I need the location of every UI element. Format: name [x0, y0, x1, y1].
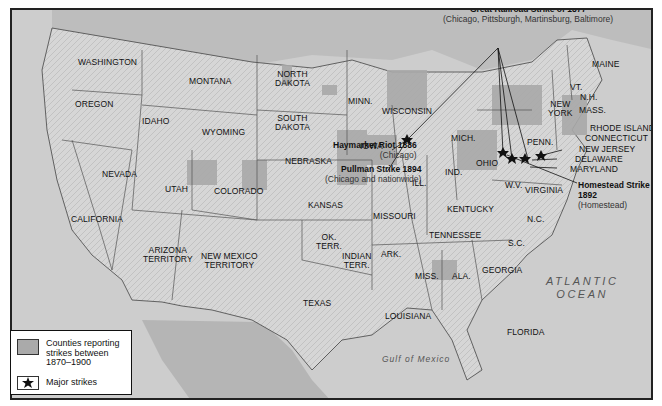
state-label-connecticut: CONNECTICUT — [585, 134, 648, 143]
strike-star-icon — [17, 376, 39, 390]
state-label-mass: MASS. — [579, 106, 606, 115]
state-label-new-mexico: NEW MEXICO TERRITORY — [201, 252, 258, 270]
state-label-ark: ARK. — [381, 250, 401, 259]
state-label-louisiana: LOUISIANA — [385, 312, 431, 321]
state-label-ok-terr: OK. TERR. — [316, 233, 342, 251]
state-label-texas: TEXAS — [303, 299, 331, 308]
state-label-ala: ALA. — [452, 272, 471, 281]
state-label-indian-terr: INDIAN TERR. — [342, 252, 371, 270]
state-label-oregon: OREGON — [75, 100, 113, 109]
state-label-minn: MINN. — [348, 97, 373, 106]
okterr-line2: TERR. — [316, 242, 342, 251]
state-label-colorado: COLORADO — [214, 187, 263, 196]
gray-swatch-icon — [17, 339, 39, 355]
state-label-california: CALIFORNIA — [71, 215, 123, 224]
state-label-wyoming: WYOMING — [202, 128, 245, 137]
state-label-south-dakota: SOUTH DAKOTA — [275, 114, 310, 132]
state-label-nc: N.C. — [527, 215, 544, 224]
state-label-wisconsin: WISCONSIN — [382, 107, 432, 116]
map-legend: Counties reporting strikes between 1870–… — [10, 330, 132, 395]
atlantic-ocean-label: ATLANTIC OCEAN — [546, 275, 618, 301]
state-label-penn: PENN. — [527, 138, 553, 147]
state-label-kansas: KANSAS — [308, 201, 343, 210]
state-label-rhode-island: RHODE ISLAND — [590, 124, 653, 133]
state-label-mich: MICH. — [451, 134, 476, 143]
state-label-vt: VT. — [570, 83, 583, 92]
state-label-washington: WASHINGTON — [78, 58, 137, 67]
event-title: Homestead Strike — [578, 180, 650, 190]
state-label-miss: MISS. — [415, 272, 439, 281]
state-label-north-dakota: NORTH DAKOTA — [275, 70, 310, 88]
state-label-maryland: MARYLAND — [570, 165, 618, 174]
atlantic-label-line1: ATLANTIC — [546, 275, 618, 288]
event-pullman-strike: Pullman Strike 1894 (Chicago and nationw… — [325, 164, 421, 184]
state-label-georgia: GEORGIA — [482, 266, 522, 275]
state-label-ind: IND. — [445, 168, 462, 177]
event-great-railroad-strike: Great Railroad Strike of 1877 (Chicago, … — [443, 8, 613, 24]
state-label-montana: MONTANA — [189, 77, 232, 86]
state-label-new-york: NEW YORK — [548, 100, 573, 118]
state-label-virginia: VIRGINIA — [525, 186, 563, 195]
event-year: 1892 — [578, 190, 597, 200]
event-title: Pullman Strike 1894 — [341, 164, 421, 174]
event-title: Haymarket Riot 1886 — [333, 140, 417, 150]
state-label-arizona: ARIZONA TERRITORY — [143, 246, 193, 264]
gulf-of-mexico-label: Gulf of Mexico — [382, 354, 450, 364]
state-label-ohio: OHIO — [476, 159, 498, 168]
state-label-nevada: NEVADA — [102, 170, 137, 179]
state-label-idaho: IDAHO — [142, 117, 169, 126]
legend-item-major-strikes: Major strikes — [17, 376, 97, 390]
northdakota-line2: DAKOTA — [275, 79, 310, 88]
state-label-nh: N.H. — [580, 93, 597, 102]
atlantic-label-line2: OCEAN — [546, 288, 618, 301]
arizona-line2: TERRITORY — [143, 255, 193, 264]
state-label-florida: FLORIDA — [507, 328, 545, 337]
event-haymarket-riot: Haymarket Riot 1886 (Chicago) — [333, 140, 417, 160]
legend-item-counties: Counties reporting strikes between 1870–… — [17, 339, 120, 368]
event-subtitle: (Chicago) — [333, 150, 417, 160]
event-homestead-strike: Homestead Strike 1892 (Homestead) — [578, 180, 650, 210]
state-label-kentucky: KENTUCKY — [447, 205, 494, 214]
southdakota-line2: DAKOTA — [275, 123, 310, 132]
newmexico-line2: TERRITORY — [201, 261, 258, 270]
event-subtitle: (Chicago and nationwide) — [325, 174, 421, 184]
legend-label-line3: 1870–1900 — [46, 358, 120, 368]
indianterr-line2: TERR. — [342, 261, 371, 270]
state-label-delaware: DELAWARE — [575, 155, 623, 164]
state-label-sc: S.C. — [508, 239, 525, 248]
event-subtitle: (Homestead) — [578, 200, 650, 210]
state-label-tennessee: TENNESSEE — [429, 231, 481, 240]
event-subtitle: (Chicago, Pittsburgh, Martinsburg, Balti… — [443, 14, 613, 24]
newyork-line2: YORK — [548, 109, 573, 118]
state-label-missouri: MISSOURI — [373, 212, 416, 221]
state-label-new-jersey: NEW JERSEY — [579, 145, 635, 154]
state-label-wv: W.V. — [505, 181, 523, 190]
state-label-maine: MAINE — [592, 60, 619, 69]
state-label-utah: UTAH — [165, 185, 188, 194]
legend-label: Major strikes — [46, 378, 97, 388]
